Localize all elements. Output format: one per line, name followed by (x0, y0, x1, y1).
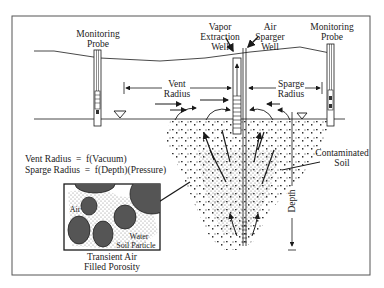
equation-vent-radius: Vent Radius = f(Vacuum) (25, 154, 127, 164)
equation-sparge-radius: Sparge Radius = f(Depth)(Pressure) (25, 165, 166, 175)
label-line: Soil (314, 158, 370, 168)
inset-label-water: Water (124, 232, 154, 241)
monitoring-probe-right (327, 44, 334, 126)
label-vapor-extraction-well: Vapor Extraction Well (196, 22, 244, 52)
water-table-icon (297, 113, 307, 119)
label-air-sparger-well: Air Sparger Well (250, 22, 290, 52)
label-line: Probe (306, 32, 358, 42)
inset-label-air: Air (67, 205, 83, 214)
label-contaminated-soil: Contaminated Soil (314, 148, 370, 168)
sparging-diagram (0, 0, 384, 288)
curved-flow-arrow (250, 109, 273, 120)
label-line: Radius (160, 89, 194, 99)
label-line: Monitoring (306, 22, 358, 32)
label-line: Monitoring (72, 29, 124, 39)
label-line: Vapor (196, 22, 244, 32)
label-depth: Depth (287, 185, 297, 217)
label-line: Sparge (276, 79, 306, 89)
label-line: Vent (160, 79, 194, 89)
label-line: Transient Air (64, 252, 160, 262)
label-monitoring-probe-right: Monitoring Probe (306, 22, 358, 42)
label-monitoring-probe-left: Monitoring Probe (72, 29, 124, 49)
vapor-extraction-well (233, 58, 241, 134)
label-sparge-radius: Sparge Radius (276, 79, 306, 99)
inset-caption: Transient Air Filled Porosity (64, 252, 160, 272)
label-line: Air (250, 22, 290, 32)
label-line: Sparger (250, 32, 290, 42)
label-vent-radius: Vent Radius (160, 79, 194, 99)
label-line: Well (196, 42, 244, 52)
label-line: Radius (276, 89, 306, 99)
label-line: Contaminated (314, 148, 370, 158)
inset-label-soil-particle: Soil Particle (112, 241, 160, 250)
label-line: Extraction (196, 32, 244, 42)
water-table-icon (114, 111, 126, 118)
label-line: Well (250, 42, 290, 52)
curved-flow-arrow (206, 109, 230, 120)
label-line: Filled Porosity (64, 262, 160, 272)
monitoring-probe-left (94, 50, 101, 126)
label-line: Probe (72, 39, 124, 49)
curved-flow-arrow (278, 110, 290, 120)
